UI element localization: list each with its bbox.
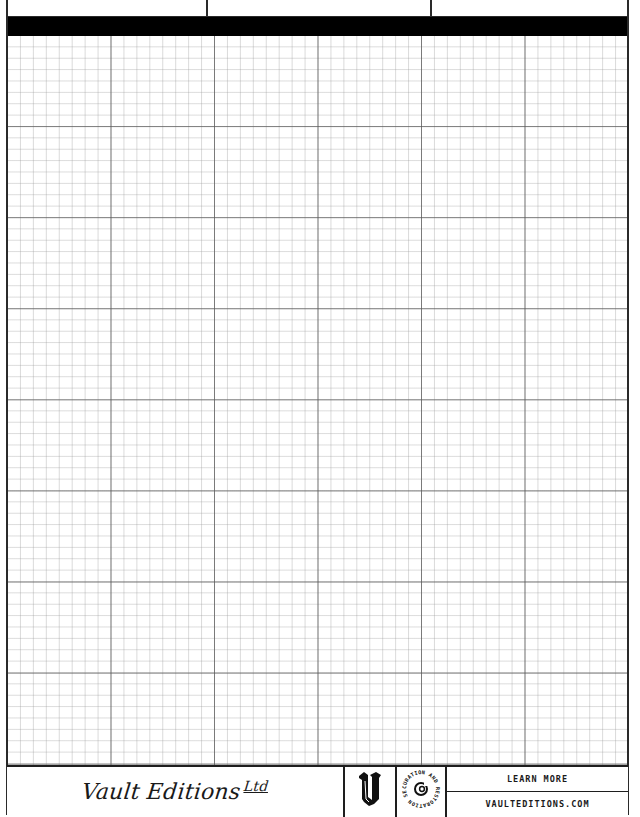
website-link[interactable]: VAULTEDITIONS.COM: [447, 792, 628, 816]
logo-cell: [345, 767, 395, 815]
badge-cell: CURATION AND RESTORATION SERVICES: [397, 767, 445, 815]
graph-grid: [8, 36, 627, 766]
learn-more-label: LEARN MORE: [507, 774, 568, 784]
restoration-badge-icon: CURATION AND RESTORATION SERVICES: [400, 768, 442, 814]
brand-suffix: Ltd: [243, 778, 269, 794]
frame-left-border: [6, 0, 8, 815]
header-box-3[interactable]: [431, 0, 628, 16]
header-black-band: [7, 17, 628, 36]
brand-wordmark: Vault EditionsLtd: [81, 778, 270, 804]
svg-text:CURATION AND RESTORATION SERVI: CURATION AND RESTORATION SERVICES: [400, 768, 441, 809]
brand-cell: Vault EditionsLtd: [7, 767, 343, 815]
links-cell: LEARN MORE VAULTEDITIONS.COM: [447, 767, 628, 815]
header-box-2[interactable]: [207, 0, 430, 16]
header-box-1[interactable]: [7, 0, 206, 16]
footer: Vault EditionsLtd CURATION AND RESTORATI: [7, 765, 628, 815]
brand-name: Vault Editions: [81, 779, 242, 804]
gothic-letter-v-icon: [357, 771, 383, 811]
learn-more-link[interactable]: LEARN MORE: [447, 767, 628, 792]
frame-right-border: [627, 0, 629, 815]
website-label: VAULTEDITIONS.COM: [486, 799, 590, 809]
header-boxes: [7, 0, 628, 17]
